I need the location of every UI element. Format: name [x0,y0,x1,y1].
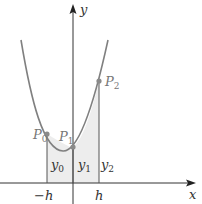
point-label-p2: P2 [104,74,119,91]
point-p2 [96,78,101,83]
point-label-p1: P1 [58,129,73,146]
x-axis-label: x [189,187,197,202]
tick-label-neg-h: −h [34,188,53,203]
ordinate-label-y2: y2 [100,157,114,174]
diagram: y x P0 P1 P2 y0 y1 y2 −h h [0,0,202,204]
point-label-p0: P0 [32,127,48,144]
tick-label-h: h [95,188,103,203]
y-axis-label: y [79,2,88,17]
